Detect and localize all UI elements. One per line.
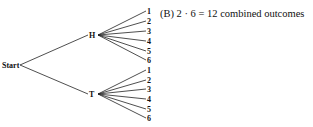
edge-h-5 (98, 35, 146, 51)
leaf-h-6: 6 (147, 56, 151, 65)
edge-t-6 (98, 94, 146, 118)
edge-start-h (20, 35, 88, 65)
node-start: Start (2, 61, 20, 70)
leaf-h-3: 3 (147, 27, 151, 36)
tree-edges (20, 11, 146, 118)
leaf-t-3: 3 (147, 85, 151, 94)
leaf-h-4: 4 (147, 37, 151, 46)
leaf-t-1: 1 (147, 66, 151, 75)
tree-diagram: Start H T 123456123456 (0, 0, 313, 127)
outcome-caption: (B) 2 · 6 = 12 combined outcomes (160, 8, 304, 19)
edge-h-6 (98, 35, 146, 60)
leaf-h-2: 2 (147, 17, 151, 26)
node-h: H (89, 31, 96, 40)
tree-leaves: 123456123456 (147, 7, 151, 123)
tree-nodes: Start H T (2, 31, 96, 99)
leaf-t-6: 6 (147, 114, 151, 123)
edge-h-4 (98, 35, 146, 41)
leaf-h-5: 5 (147, 47, 151, 56)
leaf-t-2: 2 (147, 76, 151, 85)
leaf-h-1: 1 (147, 7, 151, 16)
leaf-t-5: 5 (147, 105, 151, 114)
leaf-t-4: 4 (147, 95, 151, 104)
edge-start-t (20, 65, 88, 94)
node-t: T (89, 90, 95, 99)
